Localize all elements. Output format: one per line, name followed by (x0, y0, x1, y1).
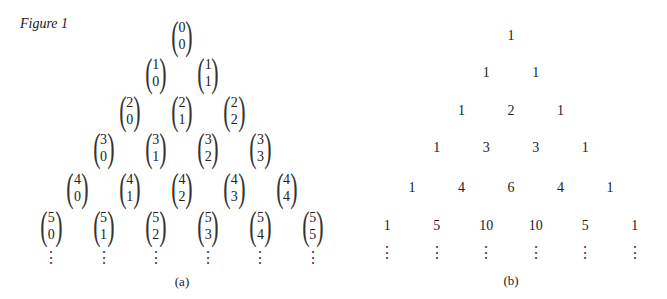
vertical-ellipsis: ⋮ (429, 250, 445, 256)
pascal-entry: 3 (532, 140, 539, 156)
binomial-coefficient: (00) (168, 16, 196, 56)
binomial-coefficient: (31) (142, 128, 170, 168)
left-paren: ( (223, 168, 230, 208)
left-paren: ( (93, 206, 100, 246)
pascal-entry: 1 (631, 218, 638, 234)
binom-k: 0 (126, 111, 133, 128)
binomial-coefficient: (22) (220, 91, 248, 131)
right-paren: ) (238, 168, 245, 208)
right-paren: ) (212, 128, 219, 168)
binom-k: 1 (126, 188, 133, 205)
vertical-ellipsis: ⋮ (96, 255, 112, 261)
vertical-ellipsis: ⋮ (627, 250, 643, 256)
binomial-coefficient: (20) (116, 91, 144, 131)
pascal-entry: 10 (529, 218, 543, 234)
binom-n: 4 (231, 171, 238, 188)
right-paren: ) (185, 91, 192, 131)
binomial-coefficient: (42) (168, 168, 196, 208)
binom-k: 3 (231, 188, 238, 205)
pascal-entry: 1 (557, 103, 564, 119)
binomial-coefficient: (11) (194, 53, 222, 93)
right-paren: ) (238, 91, 245, 131)
pascal-entry: 10 (479, 218, 493, 234)
binom-n: 2 (231, 94, 238, 111)
pascal-entry: 1 (483, 65, 490, 81)
right-paren: ) (264, 128, 271, 168)
binom-n: 5 (100, 209, 107, 226)
binomial-coefficient: (10) (142, 53, 170, 93)
binomial-coefficient: (55) (299, 206, 327, 246)
pascal-entry: 1 (508, 28, 515, 44)
left-paren: ( (250, 206, 257, 246)
pascal-entry: 4 (557, 180, 564, 196)
right-paren: ) (290, 168, 297, 208)
binom-k: 1 (100, 226, 107, 243)
pascal-entry: 1 (607, 180, 614, 196)
vertical-ellipsis: ⋮ (43, 255, 59, 261)
pascal-entry: 6 (508, 180, 515, 196)
left-paren: ( (119, 91, 126, 131)
right-paren: ) (212, 206, 219, 246)
binomial-coefficient: (41) (116, 168, 144, 208)
vertical-ellipsis: ⋮ (478, 250, 494, 256)
binomial-coefficient: (50) (37, 206, 65, 246)
pascal-entry: 5 (433, 218, 440, 234)
binomial-coefficient: (51) (90, 206, 118, 246)
right-paren: ) (55, 206, 62, 246)
binom-n: 4 (74, 171, 81, 188)
pascal-entry: 4 (458, 180, 465, 196)
binom-k: 0 (100, 148, 107, 165)
binomial-coefficient: (21) (168, 91, 196, 131)
pascal-entry: 1 (582, 140, 589, 156)
binomial-coefficient: (33) (247, 128, 275, 168)
pascal-entry: 1 (384, 218, 391, 234)
left-paren: ( (197, 206, 204, 246)
binomial-coefficient: (44) (273, 168, 301, 208)
left-paren: ( (171, 91, 178, 131)
binomial-coefficient: (52) (142, 206, 170, 246)
binomial-coefficient: (40) (64, 168, 92, 208)
right-paren: ) (159, 53, 166, 93)
right-paren: ) (264, 206, 271, 246)
pascal-entry: 2 (508, 103, 515, 119)
left-paren: ( (119, 168, 126, 208)
right-paren: ) (107, 128, 114, 168)
binom-n: 4 (126, 171, 133, 188)
vertical-ellipsis: ⋮ (379, 250, 395, 256)
binom-k: 0 (74, 188, 81, 205)
right-paren: ) (185, 168, 192, 208)
binom-k: 4 (283, 188, 290, 205)
binom-n: 3 (100, 131, 107, 148)
binom-k: 3 (257, 148, 264, 165)
vertical-ellipsis: ⋮ (148, 255, 164, 261)
right-paren: ) (81, 168, 88, 208)
left-paren: ( (171, 168, 178, 208)
right-paren: ) (133, 91, 140, 131)
vertical-ellipsis: ⋮ (200, 255, 216, 261)
left-paren: ( (145, 53, 152, 93)
pascal-entry: 5 (582, 218, 589, 234)
right-paren: ) (133, 168, 140, 208)
pascal-entry: 1 (532, 65, 539, 81)
binomial-coefficient: (43) (220, 168, 248, 208)
binomial-coefficient: (30) (90, 128, 118, 168)
left-paren: ( (93, 128, 100, 168)
right-paren: ) (212, 53, 219, 93)
binom-n: 4 (283, 171, 290, 188)
binom-k: 2 (231, 111, 238, 128)
left-paren: ( (197, 53, 204, 93)
pascal-entry: 1 (433, 140, 440, 156)
panel-b-caption: (b) (503, 273, 518, 289)
left-paren: ( (250, 128, 257, 168)
left-paren: ( (197, 128, 204, 168)
vertical-ellipsis: ⋮ (305, 255, 321, 261)
left-paren: ( (145, 128, 152, 168)
left-paren: ( (276, 168, 283, 208)
left-paren: ( (302, 206, 309, 246)
panel-a-caption: (a) (175, 274, 189, 290)
right-paren: ) (107, 206, 114, 246)
binomial-coefficient: (53) (194, 206, 222, 246)
left-paren: ( (171, 16, 178, 56)
vertical-ellipsis: ⋮ (528, 250, 544, 256)
pascal-entry: 3 (483, 140, 490, 156)
